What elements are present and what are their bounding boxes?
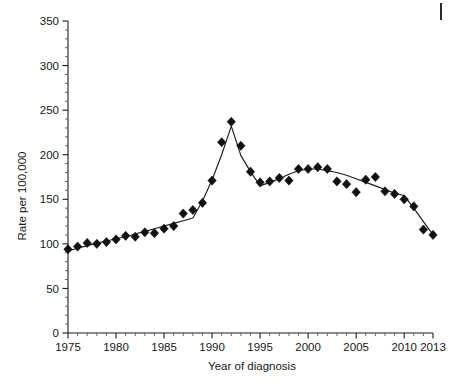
y-tick-label: 250 [40, 104, 59, 116]
data-point-marker [333, 177, 341, 186]
y-axis-title: Rate per 100,000 [16, 152, 28, 241]
data-point-marker [208, 176, 216, 185]
x-tick-label: 2013 [420, 341, 446, 353]
y-tick-group [63, 21, 69, 333]
y-tick-label: 350 [40, 15, 59, 27]
y-tick-label: 150 [40, 193, 59, 205]
data-point-marker [266, 177, 274, 186]
x-tick-label: 1985 [151, 341, 177, 353]
y-tick-label: 0 [53, 327, 59, 339]
data-point-group [64, 117, 437, 254]
data-point-marker [285, 176, 293, 185]
data-point-marker [141, 228, 149, 237]
x-axis-title: Year of diagnosis [208, 360, 296, 372]
data-point-marker [314, 163, 322, 172]
x-tick-group [68, 333, 433, 339]
data-point-marker [342, 180, 350, 189]
data-point-marker [304, 164, 312, 173]
x-tick-label: 2005 [343, 341, 369, 353]
chart-canvas: 0501001502002503003501975198019851990199… [0, 0, 456, 385]
data-point-marker [246, 167, 254, 176]
data-point-marker [227, 117, 235, 126]
data-point-marker [352, 188, 360, 197]
tick-label-group: 0501001502002503003501975198019851990199… [40, 15, 446, 353]
data-point-marker [323, 164, 331, 173]
data-point-marker [93, 239, 101, 248]
y-tick-label: 300 [40, 60, 59, 72]
data-point-marker [121, 231, 129, 240]
data-point-marker [112, 235, 120, 244]
figure-panel: 0501001502002503003501975198019851990199… [0, 0, 456, 385]
x-tick-label: 2010 [391, 341, 417, 353]
data-point-marker [179, 209, 187, 218]
trend-line-group [68, 126, 433, 251]
data-point-marker [102, 237, 110, 246]
data-point-marker [400, 195, 408, 204]
data-point-marker [410, 202, 418, 211]
x-tick-label: 2000 [295, 341, 321, 353]
y-tick-label: 100 [40, 238, 59, 250]
trend-line [68, 126, 433, 251]
data-point-marker [390, 189, 398, 198]
data-point-marker [256, 178, 264, 187]
x-tick-label: 1975 [55, 341, 81, 353]
x-tick-label: 1980 [103, 341, 129, 353]
y-tick-label: 50 [46, 283, 59, 295]
data-point-marker [371, 172, 379, 181]
y-tick-label: 200 [40, 149, 59, 161]
x-tick-label: 1995 [247, 341, 273, 353]
data-point-marker [275, 173, 283, 182]
data-point-marker [237, 141, 245, 150]
x-tick-label: 1990 [199, 341, 225, 353]
data-point-marker [73, 242, 81, 251]
